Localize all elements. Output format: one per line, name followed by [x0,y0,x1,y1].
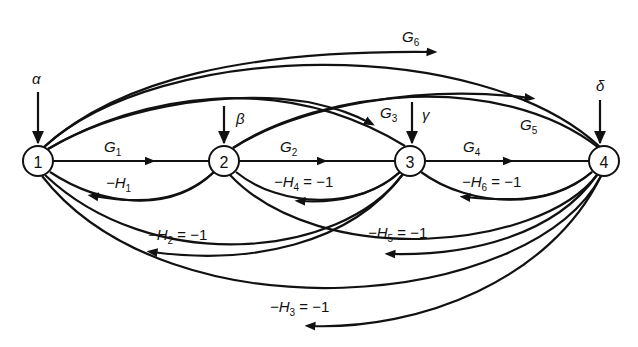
label-G3: G3 [380,104,398,124]
svg-text:3: 3 [406,154,415,171]
label-H5: −H5 = −1 [368,224,427,244]
svg-text:1: 1 [34,154,43,171]
input-gamma: γ [412,102,431,143]
node-3: 3 [395,146,425,176]
label-G5: G5 [520,116,538,136]
label-G1: G1 [104,138,122,158]
label-H3: −H3 = −1 [270,298,329,318]
alpha-label: α [32,70,41,87]
input-delta: δ [596,77,605,143]
edge-H1 [50,172,214,201]
delta-label: δ [596,77,605,94]
label-G4: G4 [463,138,481,158]
gamma-label: γ [422,106,431,123]
label-G6: G6 [402,28,420,48]
node-1: 1 [23,146,53,176]
svg-text:2: 2 [220,154,229,171]
label-G2: G2 [280,138,298,158]
label-H6: −H6 = −1 [462,173,521,193]
svg-text:4: 4 [600,154,609,171]
beta-label: β [235,110,245,127]
input-beta: β [224,106,245,143]
node-2: 2 [209,146,239,176]
input-alpha: α [32,70,41,143]
label-H4: −H4 = −1 [274,173,333,193]
signal-flow-graph: α β γ δ 1 2 [0,0,638,347]
node-4: 4 [589,146,619,176]
label-H1: −H1 [106,174,132,194]
